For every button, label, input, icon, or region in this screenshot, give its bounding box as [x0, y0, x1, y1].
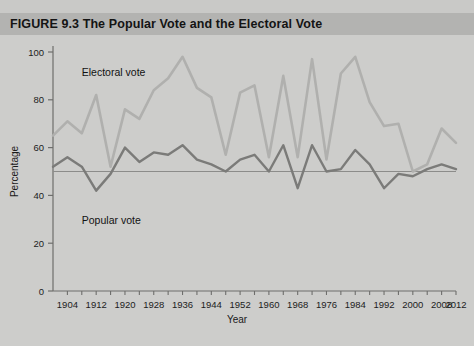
- x-tick-label: 1928: [143, 299, 164, 310]
- y-tick-label: 80: [33, 94, 44, 105]
- y-tick-label: 0: [39, 286, 44, 297]
- x-tick-label: 1912: [86, 299, 107, 310]
- x-tick-label: 1936: [172, 299, 193, 310]
- figure-title: FIGURE 9.3 The Popular Vote and the Elec…: [10, 14, 322, 34]
- y-tick-label: 100: [28, 47, 44, 58]
- x-tick-label: 1992: [373, 299, 394, 310]
- x-tick-label: 1984: [345, 299, 366, 310]
- x-tick-label: 1968: [287, 299, 308, 310]
- chart-series-labels: Electoral votePopular vote: [82, 66, 146, 226]
- series-label-electoral-vote: Electoral vote: [82, 66, 146, 78]
- x-tick-label: 1976: [316, 299, 337, 310]
- series-label-popular-vote: Popular vote: [82, 214, 141, 226]
- y-axis-title: Percentage: [9, 145, 20, 197]
- chart-plot-area: 0204060801001904191219201928193619441952…: [0, 35, 474, 346]
- x-tick-label: 1944: [201, 299, 222, 310]
- y-tick-label: 20: [33, 238, 44, 249]
- figure-container: FIGURE 9.3 The Popular Vote and the Elec…: [0, 0, 474, 346]
- y-tick-label: 60: [33, 142, 44, 153]
- x-tick-label: 2000: [402, 299, 423, 310]
- chart-tick-labels: 0204060801001904191219201928193619441952…: [28, 47, 466, 311]
- x-tick-label: 1920: [114, 299, 135, 310]
- chart-axes: [48, 46, 456, 295]
- y-tick-label: 40: [33, 190, 44, 201]
- x-axis-title: Year: [227, 314, 248, 325]
- x-tick-label: 1960: [258, 299, 279, 310]
- x-tick-label: 1952: [230, 299, 251, 310]
- x-tick-label: 1904: [57, 299, 78, 310]
- line-chart: 0204060801001904191219201928193619441952…: [0, 35, 474, 346]
- x-tick-label: 2012: [445, 299, 466, 310]
